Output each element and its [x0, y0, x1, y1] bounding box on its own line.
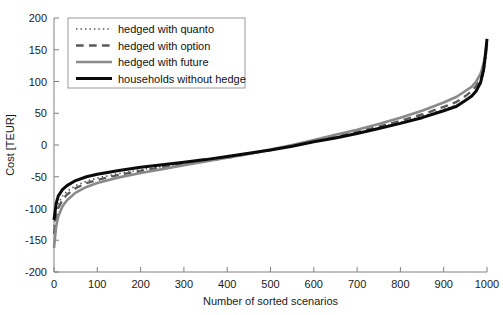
x-tick-label: 400 — [218, 278, 236, 290]
y-tick-label: -200 — [25, 266, 47, 278]
x-tick-label: 900 — [435, 278, 453, 290]
y-tick-label: 100 — [29, 76, 47, 88]
x-tick-label: 300 — [175, 278, 193, 290]
x-tick-label: 100 — [88, 278, 106, 290]
x-tick-label: 800 — [391, 278, 409, 290]
figure: -200-150-100-500501001502000100200300400… — [0, 0, 503, 315]
x-tick-label: 1000 — [475, 278, 499, 290]
x-tick-label: 700 — [348, 278, 366, 290]
x-tick-label: 0 — [51, 278, 57, 290]
y-tick-label: -150 — [25, 234, 47, 246]
legend-label-2: hedged with future — [118, 56, 209, 68]
x-tick-label: 500 — [261, 278, 279, 290]
legend-label-1: hedged with option — [118, 40, 210, 52]
y-axis-title: Cost [TEUR] — [4, 114, 16, 176]
y-tick-label: 0 — [41, 139, 47, 151]
y-tick-label: 200 — [29, 12, 47, 24]
chart-canvas: -200-150-100-500501001502000100200300400… — [0, 0, 503, 315]
y-tick-label: 50 — [35, 107, 47, 119]
x-axis-title: Number of sorted scenarios — [203, 295, 339, 307]
y-tick-label: -100 — [25, 203, 47, 215]
legend-label-3: households without hedge — [118, 73, 246, 85]
x-tick-label: 600 — [305, 278, 323, 290]
legend-label-0: hedged with quanto — [118, 23, 214, 35]
x-tick-label: 200 — [131, 278, 149, 290]
y-tick-label: 150 — [29, 44, 47, 56]
y-tick-label: -50 — [31, 171, 47, 183]
